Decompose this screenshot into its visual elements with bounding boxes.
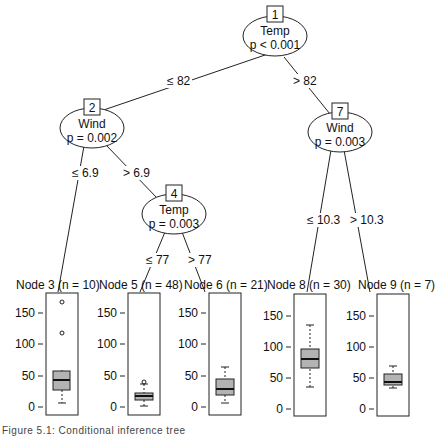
svg-text:50: 50 (185, 369, 199, 383)
node-pvalue: p = 0.002 (67, 131, 118, 145)
node-variable: Temp (159, 203, 189, 217)
svg-text:150: 150 (346, 309, 366, 323)
terminal-label-8: Node 8 (n = 30) (267, 278, 351, 292)
svg-text:150: 150 (178, 306, 198, 320)
node-id: 1 (272, 8, 279, 22)
svg-text:150: 150 (263, 309, 283, 323)
terminal-labels: Node 3 (n = 10) Node 5 (n = 48) Node 6 (… (16, 278, 435, 292)
node-variable: Wind (326, 121, 353, 135)
boxplot-panel-node-8: 0 50 100 150 (263, 294, 326, 416)
edge-label-4-6: > 77 (188, 253, 212, 267)
svg-text:0: 0 (191, 400, 198, 414)
inner-node-1: 1 Temp p < 0.001 (243, 6, 307, 56)
terminal-label-6: Node 6 (n = 21) (184, 278, 268, 292)
edge-label-7-9: > 10.3 (350, 213, 384, 227)
svg-text:100: 100 (97, 337, 117, 351)
node-id: 4 (171, 187, 178, 201)
node-variable: Wind (78, 117, 105, 131)
edge-label-2-4: > 6.9 (123, 166, 150, 180)
node-pvalue: p = 0.003 (149, 217, 200, 231)
svg-text:150: 150 (97, 306, 117, 320)
boxplot-panel-node-5: 0 50 100 150 (97, 293, 160, 415)
boxplot-panel-node-3: 0 50 100 150 (15, 293, 78, 415)
terminal-label-9: Node 9 (n = 7) (358, 278, 435, 292)
terminal-label-5: Node 5 (n = 48) (99, 278, 183, 292)
svg-text:0: 0 (276, 402, 283, 416)
inner-node-7: 7 Wind p = 0.003 (308, 103, 372, 152)
node-pvalue: p = 0.003 (315, 135, 366, 149)
node-id: 7 (337, 105, 344, 119)
edge-label-7-8: ≤ 10.3 (307, 213, 341, 227)
node-variable: Temp (260, 24, 290, 38)
svg-text:0: 0 (110, 400, 117, 414)
edge-label-4-5: ≤ 77 (146, 253, 170, 267)
edge-label-2-3: ≤ 6.9 (72, 166, 99, 180)
edge-label-1-7: > 82 (293, 74, 317, 88)
boxplot-panel-node-9: 0 50 100 150 (346, 294, 409, 416)
svg-text:100: 100 (15, 337, 35, 351)
figure-caption: Figure 5.1: Conditional inference tree (2, 425, 186, 436)
svg-text:150: 150 (15, 306, 35, 320)
svg-text:50: 50 (104, 369, 118, 383)
node-id: 2 (89, 101, 96, 115)
svg-text:50: 50 (353, 371, 367, 385)
svg-text:0: 0 (359, 402, 366, 416)
node-pvalue: p < 0.001 (250, 38, 301, 52)
tree-edges (58, 54, 370, 292)
svg-text:50: 50 (270, 371, 284, 385)
edge-label-1-2: ≤ 82 (167, 74, 191, 88)
svg-text:100: 100 (263, 340, 283, 354)
svg-text:0: 0 (28, 400, 35, 414)
svg-text:50: 50 (22, 369, 36, 383)
terminal-label-3: Node 3 (n = 10) (16, 278, 100, 292)
boxplot-panel-node-6: 0 50 100 150 (178, 293, 241, 415)
svg-text:100: 100 (178, 337, 198, 351)
svg-text:100: 100 (346, 340, 366, 354)
